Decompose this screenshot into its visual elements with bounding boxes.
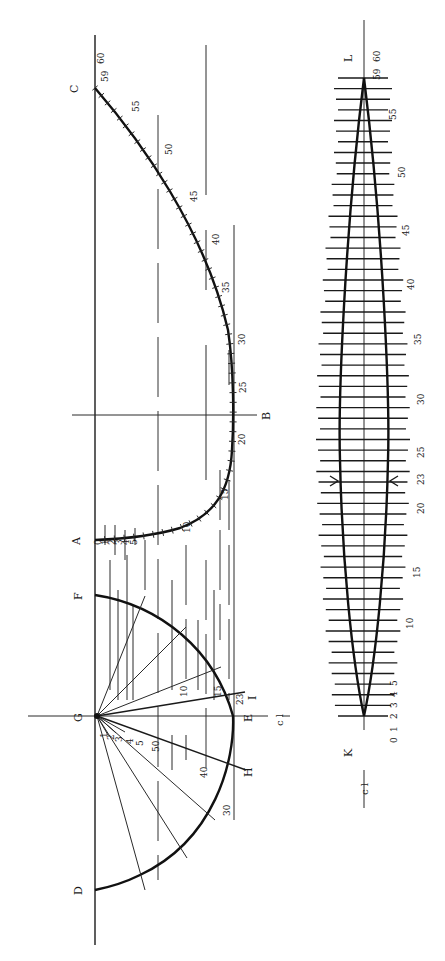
station-number: 40 — [406, 278, 416, 290]
label-k: K — [342, 748, 355, 757]
label-h: H — [242, 767, 255, 777]
profile-and-section: C B A F G E H I c l D 012345101520253035… — [28, 35, 290, 945]
station-number: 50 — [397, 166, 407, 178]
boat-plank-development-diagram: C B A F G E H I c l D 012345101520253035… — [0, 0, 445, 961]
label-l: L — [342, 54, 355, 62]
station-number: 50 — [151, 740, 161, 752]
label-i: I — [246, 696, 259, 700]
label-b: B — [260, 412, 273, 420]
station-number: 23 — [235, 693, 245, 705]
station-number: 3 — [114, 736, 124, 742]
station-number: 30 — [416, 393, 426, 405]
developed-plank: L K c l 01234510152023253035404550555960 — [316, 20, 426, 808]
station-number: 15 — [213, 685, 223, 697]
station-number: 5 — [389, 680, 399, 686]
station-number: 3 — [389, 702, 399, 708]
station-number: 15 — [220, 488, 230, 500]
station-number: 59 — [372, 68, 382, 80]
station-number: 40 — [199, 766, 209, 778]
guide-lines — [105, 45, 234, 880]
station-number: 60 — [372, 50, 382, 62]
label-cl-section: c l — [274, 714, 285, 726]
station-number: 15 — [412, 566, 422, 578]
station-number: 60 — [96, 52, 106, 64]
arrow-mark-left — [330, 476, 338, 486]
station-number: 30 — [237, 333, 247, 345]
station-number: 25 — [416, 446, 426, 458]
station-number: 45 — [401, 224, 411, 236]
station-number: 0 — [389, 737, 399, 743]
diagram-canvas: C B A F G E H I c l D 012345101520253035… — [0, 0, 445, 961]
label-e: E — [242, 714, 255, 722]
station-number: 35 — [221, 281, 231, 293]
station-number: 25 — [238, 381, 248, 393]
label-f: F — [72, 592, 85, 600]
profile-station-numbers: 012345101520253035404550555960 — [93, 52, 248, 545]
station-number: 35 — [413, 333, 423, 345]
station-number: 55 — [388, 108, 398, 120]
label-cl-plank: c l — [359, 783, 370, 795]
station-number: 10 — [179, 685, 189, 697]
station-number: 5 — [129, 539, 139, 545]
arrow-mark-right — [390, 476, 398, 486]
station-number: 2 — [389, 713, 399, 719]
station-number: 40 — [211, 233, 221, 245]
station-number: 59 — [100, 70, 110, 82]
station-number: 4 — [125, 738, 135, 744]
station-number: 4 — [389, 691, 399, 697]
label-d: D — [72, 886, 85, 895]
label-c: C — [68, 85, 81, 93]
station-number: 20 — [416, 502, 426, 514]
station-number: 1 — [389, 726, 399, 732]
station-number: 55 — [131, 100, 141, 112]
station-number: 10 — [405, 617, 415, 629]
station-number: 20 — [237, 433, 247, 445]
label-a: A — [70, 536, 83, 546]
station-number: 5 — [135, 740, 145, 746]
station-number: 10 — [182, 521, 192, 533]
station-number: 23 — [416, 473, 426, 485]
g-point — [94, 713, 100, 719]
label-g: G — [72, 713, 85, 722]
station-number: 45 — [189, 190, 199, 202]
station-number: 30 — [222, 804, 232, 816]
station-number: 50 — [164, 143, 174, 155]
plank-station-lines — [316, 78, 410, 716]
